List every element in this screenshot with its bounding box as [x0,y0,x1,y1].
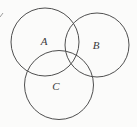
set-label-c: C [52,80,60,92]
set-label-a: A [40,35,48,47]
edge-mark [0,13,3,17]
set-label-b: B [93,39,100,51]
page-background: ABC [0,0,137,127]
venn-diagram: ABC [0,0,137,127]
